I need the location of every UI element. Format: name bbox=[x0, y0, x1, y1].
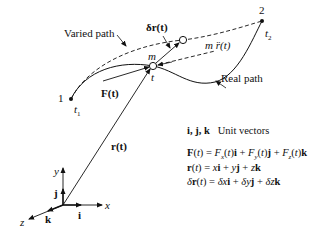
diagram-canvas bbox=[0, 0, 322, 236]
inertia-label: m r̈(t) bbox=[205, 40, 230, 51]
equation-variation: δr(t) = δxi + δyj + δzk δr(t) = δxi + δy… bbox=[187, 177, 280, 188]
equation-force: F(t) = Fx(t)i + Fy(t)j + Fz(t)k F(t) = F… bbox=[187, 148, 307, 161]
variation-label: δr(t) bbox=[146, 22, 168, 33]
point-1-label: 1 bbox=[58, 93, 64, 104]
real-path-label: Real path bbox=[221, 73, 263, 84]
equation-position: r(t) = xi + yj + zk r(t) = xi + yj + zk bbox=[187, 163, 261, 174]
t2-label: t2 bbox=[265, 28, 272, 42]
inertia-leader bbox=[158, 62, 172, 65]
varied-mass-circle bbox=[179, 36, 186, 43]
unit-i-label: i bbox=[78, 210, 81, 221]
mass-circle bbox=[149, 62, 156, 69]
unit-vectors-text: Unit vectors bbox=[218, 125, 270, 136]
point-2-dot bbox=[260, 19, 264, 23]
variation-vector bbox=[156, 43, 179, 63]
y-axis-label: y bbox=[54, 166, 59, 177]
point-2-label: 2 bbox=[259, 5, 265, 16]
varied-path-leader bbox=[117, 35, 126, 46]
point-1-dot bbox=[69, 97, 73, 101]
unit-k-label: k bbox=[45, 214, 51, 225]
x-axis-label: x bbox=[105, 200, 110, 211]
unit-k-arrow bbox=[48, 205, 63, 211]
unit-vectors-legend: i, j, k Unit vectors bbox=[187, 126, 269, 137]
unit-j-label: j bbox=[54, 188, 58, 199]
t1-label: t1 bbox=[74, 104, 81, 118]
z-axis-label: z bbox=[20, 217, 24, 228]
mass-label: m bbox=[148, 51, 156, 62]
force-arrow bbox=[103, 67, 149, 81]
time-t-label: t bbox=[151, 72, 154, 83]
force-label: F(t) bbox=[101, 88, 119, 99]
unit-vectors-symbols: i, j, k bbox=[187, 125, 210, 136]
varied-path-label: Varied path bbox=[64, 28, 114, 39]
position-label: r(t) bbox=[111, 141, 127, 152]
